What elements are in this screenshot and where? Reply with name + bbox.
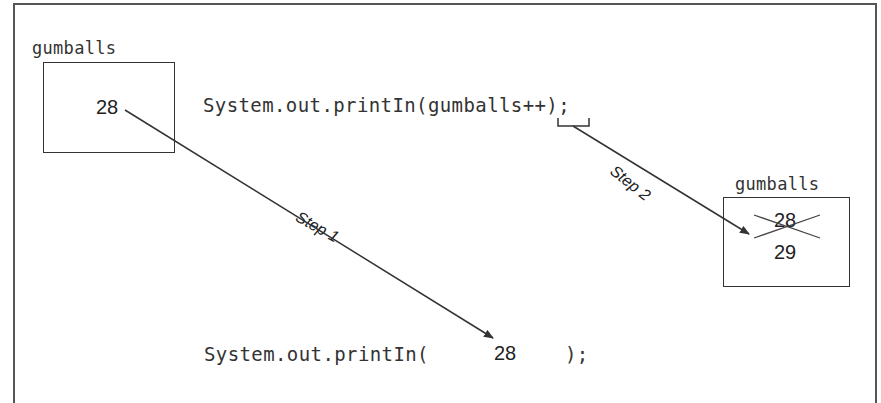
increment-bracket bbox=[558, 118, 589, 126]
step-1-arrow bbox=[125, 110, 493, 338]
step-2-arrow bbox=[573, 126, 749, 234]
